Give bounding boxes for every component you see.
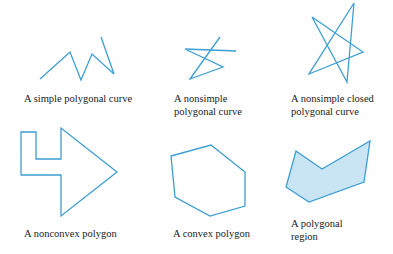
convex-polygon-shape (171, 145, 245, 216)
caption-line: A nonsimple (174, 92, 242, 105)
caption-line: region (291, 230, 343, 243)
caption-simple-polygonal-curve: A simple polygonal curve (24, 92, 132, 105)
polygonal-region-shape (286, 141, 370, 202)
caption-line: A simple polygonal curve (24, 92, 132, 105)
caption-nonconvex-polygon: A nonconvex polygon (24, 227, 117, 240)
shapes-layer (0, 0, 393, 254)
polygon-types-diagram: A simple polygonal curve A nonsimple pol… (0, 0, 393, 254)
caption-line: polygonal curve (291, 105, 374, 118)
nonconvex-polygon-shape (21, 128, 117, 216)
nonsimple-polygonal-curve-shape (185, 37, 236, 79)
caption-line: A nonconvex polygon (24, 227, 117, 240)
simple-polygonal-curve-shape (40, 37, 114, 80)
caption-polygonal-region: A polygonal region (291, 217, 343, 243)
caption-convex-polygon: A convex polygon (173, 227, 250, 240)
caption-line: A convex polygon (173, 227, 250, 240)
caption-nonsimple-polygonal-curve: A nonsimple polygonal curve (174, 92, 242, 118)
caption-line: polygonal curve (174, 105, 242, 118)
caption-nonsimple-closed-polygonal-curve: A nonsimple closed polygonal curve (291, 92, 374, 118)
nonsimple-closed-polygonal-curve-shape (309, 3, 363, 82)
caption-line: A polygonal (291, 217, 343, 230)
caption-line: A nonsimple closed (291, 92, 374, 105)
